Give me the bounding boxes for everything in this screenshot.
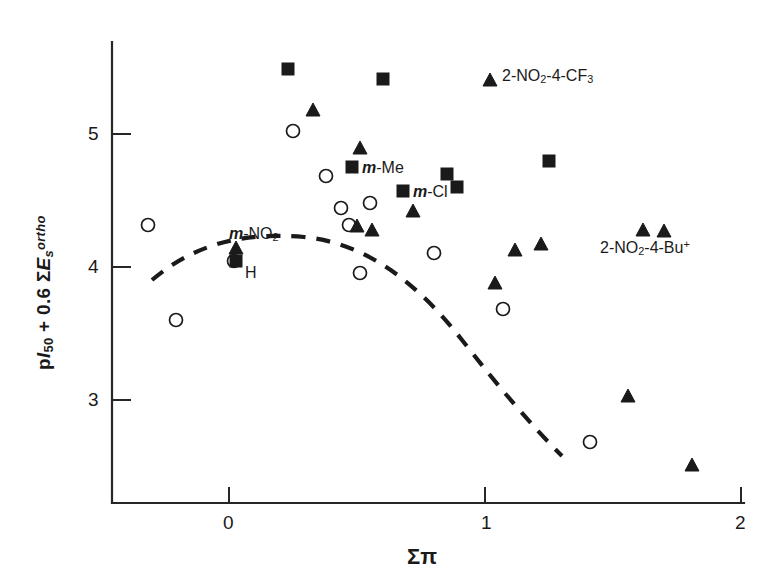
m-no2-rest: -NO bbox=[243, 225, 272, 242]
point-triangle bbox=[685, 458, 699, 471]
y-axis-title: pI50 + 0.6 ΣEsortho bbox=[34, 215, 56, 370]
point-triangle bbox=[534, 237, 548, 250]
annotation-m-cl: m-Cl bbox=[413, 184, 448, 200]
data-markers bbox=[142, 63, 700, 471]
legend-triangle-cf3 bbox=[483, 73, 497, 86]
point-triangle bbox=[306, 103, 320, 116]
m-no2-italic: m bbox=[229, 225, 243, 242]
point-square bbox=[346, 161, 358, 173]
point-triangle bbox=[350, 219, 364, 232]
y-title-sub50: 50 bbox=[41, 338, 56, 353]
cf3-sub2: 3 bbox=[587, 73, 593, 85]
y-title-E: E bbox=[33, 257, 54, 270]
m-me-italic: m bbox=[362, 159, 376, 176]
annotation-bu: 2-NO2-4-Bu+ bbox=[600, 239, 690, 257]
bu-sup: + bbox=[683, 238, 689, 250]
annotation-m-no2: m-NO2 bbox=[229, 226, 279, 243]
point-circle bbox=[497, 303, 510, 316]
point-circle bbox=[335, 202, 348, 215]
x-tick-label-2: 2 bbox=[735, 513, 746, 532]
y-tick-label-4: 4 bbox=[88, 257, 99, 276]
point-circle bbox=[320, 170, 333, 183]
point-square bbox=[377, 73, 389, 85]
point-triangle bbox=[365, 223, 379, 236]
point-triangle bbox=[636, 223, 650, 236]
annotation-m-me: m-Me bbox=[362, 160, 404, 176]
series-filled-triangle bbox=[229, 103, 699, 471]
point-circle bbox=[584, 436, 597, 449]
y-title-I: I bbox=[33, 353, 54, 359]
y-title-sup-ortho: ortho bbox=[33, 215, 48, 249]
annotation-markers bbox=[483, 73, 671, 237]
y-tick-label-5: 5 bbox=[88, 124, 99, 143]
m-no2-sub: 2 bbox=[273, 231, 279, 243]
y-tick-label-3: 3 bbox=[88, 390, 99, 409]
y-tick-marks bbox=[112, 134, 131, 400]
bu-pre: 2-NO bbox=[600, 239, 638, 256]
y-title-sub-s: s bbox=[41, 250, 56, 257]
point-circle bbox=[354, 267, 367, 280]
chart-figure: 5 4 3 0 1 2 Σπ pI50 + 0.6 ΣEsortho 2-NO2… bbox=[0, 0, 766, 579]
trend-curve bbox=[152, 236, 562, 456]
point-circle bbox=[287, 125, 300, 138]
point-triangle bbox=[621, 389, 635, 402]
point-square bbox=[441, 168, 453, 180]
y-title-sigma: Σ bbox=[33, 270, 54, 282]
point-circle bbox=[170, 314, 183, 327]
plot-canvas bbox=[0, 0, 766, 579]
point-square bbox=[282, 63, 294, 75]
x-tick-marks bbox=[229, 487, 741, 503]
point-circle bbox=[364, 197, 377, 210]
cf3-mid: -4-CF bbox=[546, 67, 587, 84]
point-square bbox=[543, 155, 555, 167]
annotation-h: H bbox=[245, 265, 257, 281]
y-title-p: p bbox=[33, 358, 54, 370]
point-triangle bbox=[508, 243, 522, 256]
point-triangle bbox=[406, 204, 420, 217]
point-triangle bbox=[353, 141, 367, 154]
x-axis-title: Σπ bbox=[407, 546, 438, 568]
m-me-rest: -Me bbox=[376, 159, 404, 176]
annotation-cf3: 2-NO2-4-CF3 bbox=[502, 68, 593, 85]
bu-mid: -4-Bu bbox=[644, 239, 683, 256]
m-cl-rest: -Cl bbox=[427, 183, 447, 200]
point-square bbox=[230, 255, 242, 267]
cf3-pre: 2-NO bbox=[502, 67, 540, 84]
m-cl-italic: m bbox=[413, 183, 427, 200]
x-tick-label-1: 1 bbox=[481, 513, 492, 532]
point-square bbox=[451, 181, 463, 193]
point-circle bbox=[428, 247, 441, 260]
legend-triangle-bu bbox=[657, 224, 671, 237]
x-tick-label-0: 0 bbox=[223, 513, 234, 532]
point-triangle bbox=[488, 276, 502, 289]
point-circle bbox=[142, 219, 155, 232]
point-square bbox=[397, 185, 409, 197]
y-title-plus: + 0.6 bbox=[33, 282, 54, 337]
axes-group bbox=[112, 42, 744, 503]
